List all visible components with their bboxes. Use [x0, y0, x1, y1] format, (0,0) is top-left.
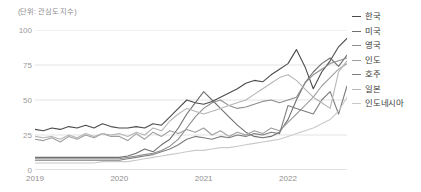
x-axis-tick-label: 2021 [195, 174, 213, 183]
y-axis: 0255075100 [6, 30, 32, 170]
y-axis-tick-label: 50 [8, 96, 32, 105]
x-axis: 2019202020212022 [35, 174, 347, 188]
legend-label: 일본 [365, 85, 381, 93]
interest-index-line-chart: (단위: 관심도 지수) 0255075100 2019202020212022… [0, 0, 421, 192]
legend-color-swatch [352, 16, 361, 17]
x-axis-tick-label: 2019 [26, 174, 44, 183]
legend-item[interactable]: 한국 [352, 10, 381, 23]
y-axis-tick-label: 100 [8, 26, 32, 35]
legend-item[interactable]: 호주 [352, 68, 381, 81]
legend-item[interactable]: 미국 [352, 25, 381, 38]
legend-color-swatch [352, 45, 361, 46]
plot-area [35, 30, 347, 170]
legend-label: 영국 [365, 41, 381, 49]
legend-color-swatch [352, 74, 361, 75]
legend-label: 인도네시아 [365, 99, 404, 107]
plot-svg [35, 30, 347, 170]
legend-item[interactable]: 인도네시아 [352, 97, 404, 110]
legend-color-swatch [352, 60, 361, 61]
y-axis-tick-label: 75 [8, 61, 32, 70]
legend-color-swatch [352, 103, 361, 104]
legend-label: 인도 [365, 56, 381, 64]
series-line [35, 64, 347, 142]
chart-unit-label: (단위: 관심도 지수) [18, 6, 77, 16]
series-line [35, 97, 347, 163]
series-line [35, 55, 347, 157]
chart-legend: 한국미국영국인도호주일본인도네시아 [352, 10, 421, 118]
legend-color-swatch [352, 89, 361, 90]
legend-item[interactable]: 인도 [352, 54, 381, 67]
legend-color-swatch [352, 31, 361, 32]
y-axis-tick-label: 25 [8, 131, 32, 140]
legend-label: 미국 [365, 27, 381, 35]
x-axis-tick-label: 2022 [279, 174, 297, 183]
legend-item[interactable]: 일본 [352, 83, 381, 96]
legend-item[interactable]: 영국 [352, 39, 381, 52]
legend-label: 호주 [365, 70, 381, 78]
legend-label: 한국 [365, 12, 381, 20]
x-axis-tick-label: 2020 [110, 174, 128, 183]
